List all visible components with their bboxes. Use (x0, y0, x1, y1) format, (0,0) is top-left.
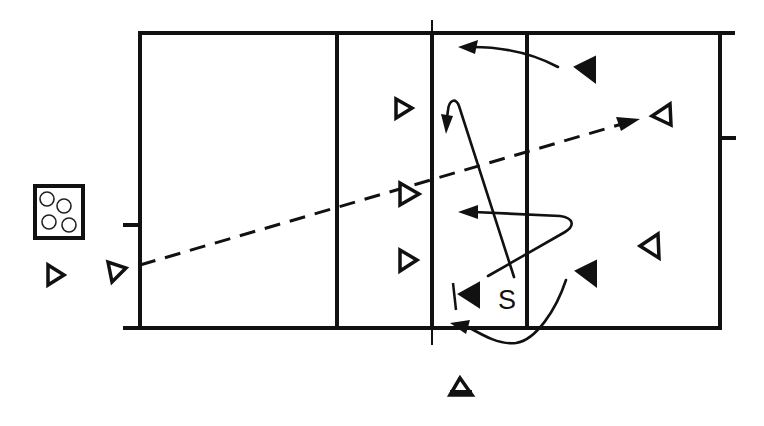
player-solid-triangle-icon (576, 261, 596, 286)
player-open-triangle-icon (400, 250, 417, 271)
top-movement-path (472, 47, 558, 67)
setter-path-arrowhead-icon (441, 114, 453, 134)
player-base-bar (450, 390, 472, 396)
volleyball-drill-diagram: S (0, 0, 764, 426)
player-open-triangle-icon (396, 99, 412, 118)
player-open-triangle-icon (652, 104, 671, 125)
ball-icon (42, 215, 56, 229)
server-label: S (498, 285, 516, 315)
ball-icon (57, 199, 71, 213)
top-arrowhead-icon (458, 40, 478, 54)
zigzag-arrowhead-icon (458, 205, 478, 219)
ball-icon (40, 192, 54, 206)
ball-icon (62, 218, 76, 232)
player-open-triangle-icon (640, 234, 659, 258)
ball-cart (35, 186, 83, 238)
serve-trajectory (140, 117, 640, 265)
player-open-triangle-icon (400, 183, 419, 205)
player-solid-triangle-icon (459, 283, 479, 307)
serve-arrowhead-icon (616, 117, 640, 131)
zigzag-path (474, 212, 572, 276)
player-solid-triangle-icon (575, 57, 595, 82)
player-open-triangle-icon (108, 262, 126, 282)
block-marker-line (453, 283, 456, 310)
court (125, 20, 734, 345)
setter-path-long (447, 101, 514, 277)
player-open-triangle-icon (48, 265, 64, 285)
bottom-curve-path (468, 280, 566, 343)
dashed-serve-line (140, 124, 622, 265)
